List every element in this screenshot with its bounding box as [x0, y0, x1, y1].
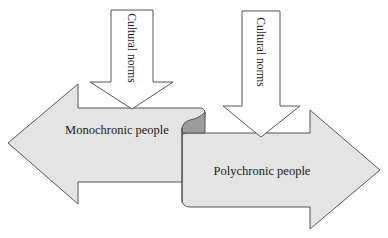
monochronic-arrow-shape	[8, 84, 205, 204]
cultural-norms-label: Cultural norms	[255, 17, 267, 87]
monochronic-arrow: Monochronic people	[8, 84, 205, 204]
cultural-norms-arrow-left: Cultural norms	[90, 10, 173, 109]
diagram-canvas: Polychronic people Monochronic people Cu…	[0, 0, 388, 238]
cultural-norms-label: Cultural norms	[126, 13, 138, 83]
polychronic-arrow: Polychronic people	[182, 110, 380, 229]
cultural-norms-arrow-right: Cultural norms	[223, 11, 300, 137]
polychronic-label: Polychronic people	[214, 164, 311, 178]
monochronic-label: Monochronic people	[65, 123, 169, 137]
